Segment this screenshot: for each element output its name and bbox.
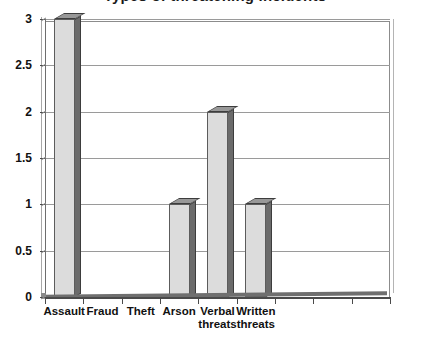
y-axis-tick-label: 1 <box>0 197 32 211</box>
x-axis-category-label: Arson <box>163 305 196 318</box>
gridline <box>45 19 390 20</box>
x-axis-tick <box>198 299 199 304</box>
bar-side-face <box>228 108 234 297</box>
x-axis-tick <box>83 299 84 304</box>
x-axis-category-label: Verbal threats <box>198 305 236 331</box>
y-axis-tick-label: 0.5 <box>0 244 32 258</box>
x-axis-tick <box>122 299 123 304</box>
bar-front-face <box>169 204 190 297</box>
bar-front-face <box>54 19 75 297</box>
plot-border-top <box>45 21 390 22</box>
bar <box>207 112 228 297</box>
chart-title: Types of threatening incidents <box>0 0 430 4</box>
x-axis-tick <box>313 299 314 304</box>
y-axis-tick-label: 0 <box>0 290 32 304</box>
y-axis-tick-label: 2.5 <box>0 58 32 72</box>
bar-front-face <box>245 204 266 297</box>
plot-depth-edge-right <box>393 19 394 293</box>
gridline <box>45 65 390 66</box>
bar-side-face <box>266 201 272 297</box>
plot-area <box>45 19 390 297</box>
y-axis-tick-label: 1.5 <box>0 151 32 165</box>
x-axis-tick <box>237 299 238 304</box>
bar-front-face <box>207 112 228 297</box>
y-axis-tick-label: 2 <box>0 105 32 119</box>
bar <box>169 204 190 297</box>
x-axis-tick <box>390 299 391 304</box>
bar <box>54 19 75 297</box>
bar-side-face <box>75 16 81 297</box>
x-axis-tick <box>352 299 353 304</box>
bar-side-face <box>190 201 196 297</box>
plot-border-right <box>389 21 390 297</box>
x-axis-tick <box>45 299 46 304</box>
y-axis-tick-label: 3 <box>0 12 32 26</box>
x-axis-tick <box>275 299 276 304</box>
x-axis-category-label: Assault <box>43 305 85 318</box>
x-axis-category-label: Theft <box>127 305 155 318</box>
x-axis-tick <box>160 299 161 304</box>
x-axis-line <box>45 297 391 299</box>
x-axis-category-label: Written threats <box>236 305 275 331</box>
x-axis-category-label: Fraud <box>87 305 119 318</box>
bar <box>245 204 266 297</box>
